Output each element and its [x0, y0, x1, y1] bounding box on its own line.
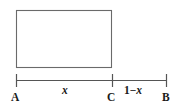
segment-label-x: x [62, 85, 68, 97]
point-label-a: A [11, 92, 19, 104]
segment-label-one-minus-x: 1−x [124, 85, 142, 97]
segment-label-variable: x [136, 84, 142, 96]
point-label-b: B [162, 92, 170, 104]
segment-label-x-text: x [62, 84, 68, 96]
point-label-c: C [107, 92, 115, 104]
geometry-figure: x 1−x A C B [0, 0, 181, 111]
figure-canvas [0, 0, 181, 111]
rectangle-shape [17, 11, 112, 68]
